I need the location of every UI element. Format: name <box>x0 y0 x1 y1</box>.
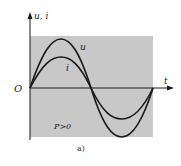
curve-u-label: u <box>80 42 86 52</box>
figure-caption: a) <box>77 144 85 153</box>
origin-label: O <box>14 83 22 94</box>
voltage-current-diagram: u, i t O u i P>0 a) <box>0 0 181 166</box>
x-axis-arrow-icon <box>167 86 174 91</box>
power-label: P>0 <box>53 122 71 131</box>
curve-i-label: i <box>66 63 69 73</box>
y-axis-arrow-icon <box>28 12 33 19</box>
power-shaded-region <box>30 36 153 137</box>
y-axis-label: u, i <box>34 11 49 21</box>
x-axis-label: t <box>164 76 168 86</box>
